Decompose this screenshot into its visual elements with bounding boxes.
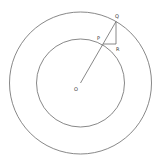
radius-line-oq	[81, 22, 117, 84]
label-q: Q	[115, 13, 119, 19]
concentric-circles-diagram: O P Q R	[0, 0, 159, 162]
label-o: O	[74, 86, 78, 92]
label-r: R	[116, 46, 120, 52]
label-p: P	[97, 35, 100, 41]
